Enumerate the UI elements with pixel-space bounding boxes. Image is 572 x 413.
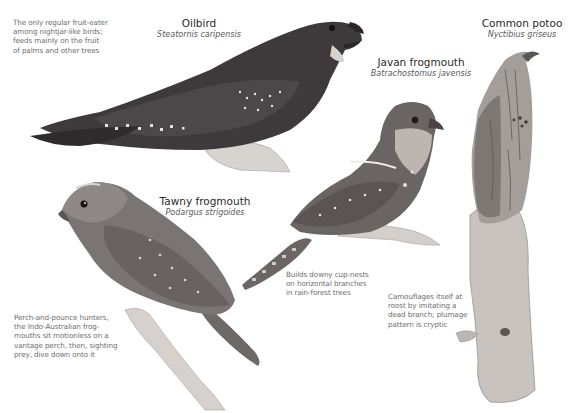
caption-line: pattern is cryptic (388, 320, 488, 329)
caption-line: Camouflages itself at (388, 292, 488, 301)
caption-line: The only regular fruit-eater (13, 18, 143, 27)
caption-line: of palms and other trees (13, 46, 143, 55)
caption-line: feeds mainly on the fruit (13, 36, 143, 45)
tawny-frogmouth-label: Tawny frogmouth Podargus strigoides (150, 195, 260, 218)
caption-line: roost by imitating a (388, 301, 488, 310)
common-name: Tawny frogmouth (150, 195, 260, 208)
common-name: Oilbird (140, 17, 258, 30)
caption-line: Perch-and-pounce hunters, (14, 313, 144, 322)
common-name: Javan frogmouth (362, 56, 480, 69)
caption-line: prey, dive down onto it (14, 350, 144, 359)
javan-frogmouth-caption: Builds downy cup-nests on horizontal bra… (286, 270, 396, 298)
caption-line: the Indo-Australian frog- (14, 322, 144, 331)
oilbird-caption: The only regular fruit-eater among night… (13, 18, 143, 55)
caption-line: vantage perch, then, sighting (14, 341, 144, 350)
oilbird-label: Oilbird Steatornis caripensis (140, 17, 258, 40)
caption-line: mouths sit motionless on a (14, 331, 144, 340)
javan-frogmouth-label: Javan frogmouth Batrachostomus javensis (362, 56, 480, 79)
common-name: Common potoo (476, 17, 568, 30)
caption-line: in rain-forest trees (286, 288, 396, 297)
scientific-name: Steatornis caripensis (140, 30, 258, 40)
scientific-name: Podargus strigoides (150, 208, 260, 218)
caption-line: Builds downy cup-nests (286, 270, 396, 279)
tawny-frogmouth-caption: Perch-and-pounce hunters, the Indo-Austr… (14, 313, 144, 359)
caption-line: on horizontal branches (286, 279, 396, 288)
caption-line: dead branch; plumage (388, 310, 488, 319)
scientific-name: Batrachostomus javensis (362, 69, 480, 79)
common-potoo-caption: Camouflages itself at roost by imitating… (388, 292, 488, 329)
common-potoo-label: Common potoo Nyctibius griseus (476, 17, 568, 40)
caption-line: among nightjar-like birds; (13, 27, 143, 36)
scientific-name: Nyctibius griseus (476, 30, 568, 40)
